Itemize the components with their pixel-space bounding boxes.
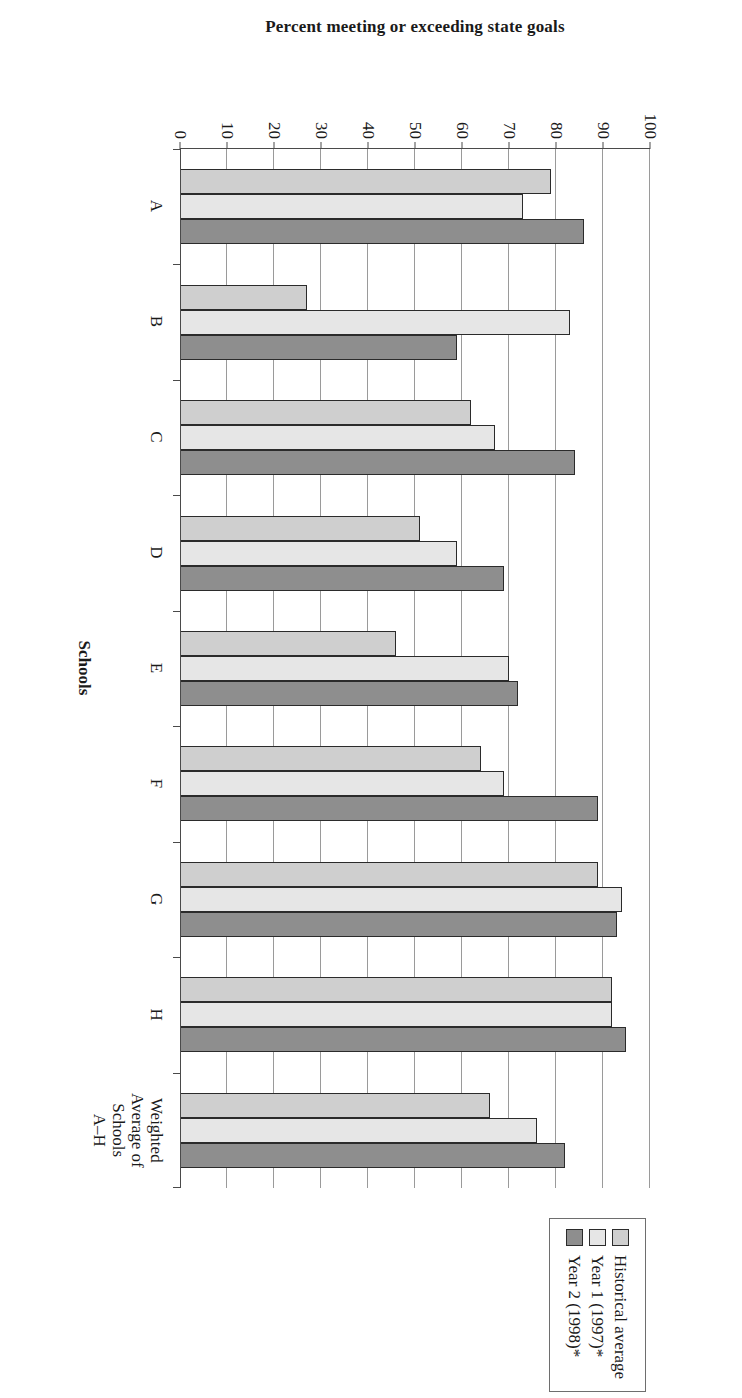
- bar-group[interactable]: [180, 611, 650, 726]
- category-label-line: A: [147, 148, 166, 264]
- bar[interactable]: [180, 541, 457, 566]
- x-axis-tick-mark: [173, 726, 180, 727]
- category-label-line: G: [147, 841, 166, 957]
- x-axis-baseline: [180, 149, 181, 1188]
- bar[interactable]: [180, 862, 598, 887]
- x-axis-category-label: E: [90, 610, 170, 726]
- bar-group[interactable]: [180, 842, 650, 957]
- legend-swatch-year1: [589, 1229, 606, 1246]
- x-axis-category-label: F: [90, 726, 170, 842]
- x-axis-category-label: WeightedAverage ofSchoolsA–H: [90, 1073, 170, 1189]
- bar-group[interactable]: [180, 726, 650, 841]
- x-axis-tick-mark: [173, 380, 180, 381]
- x-axis-tick-mark: [173, 264, 180, 265]
- bar[interactable]: [180, 450, 575, 475]
- x-axis-tick-mark: [173, 957, 180, 958]
- x-axis-category-labels: ABCDEFGHWeightedAverage ofSchoolsA–H: [90, 148, 170, 1188]
- y-axis-tick-label: 50: [407, 93, 424, 149]
- x-axis-category-label: C: [90, 379, 170, 495]
- y-axis-tick-label: 0: [172, 93, 189, 149]
- category-label-line: Weighted: [147, 1073, 166, 1189]
- bar[interactable]: [180, 285, 307, 310]
- x-axis-tick-mark: [173, 1187, 180, 1188]
- x-axis-tick-mark: [173, 149, 180, 150]
- legend-entry[interactable]: Year 2 (1998)*: [566, 1229, 583, 1379]
- bar[interactable]: [180, 219, 584, 244]
- bar[interactable]: [180, 1118, 537, 1143]
- y-axis-title: Percent meeting or exceeding state goals: [180, 14, 650, 40]
- legend-entry[interactable]: Year 1 (1997)*: [589, 1229, 606, 1379]
- y-axis-tick-label: 90: [595, 93, 612, 149]
- legend-entry-label: Historical average: [612, 1255, 629, 1379]
- bar-groups: [180, 149, 650, 1188]
- legend-swatch-year2: [566, 1229, 583, 1246]
- y-axis-tick-label: 80: [548, 93, 565, 149]
- y-axis-tick-label: 60: [454, 93, 471, 149]
- legend-swatch-historical: [612, 1229, 629, 1246]
- bar[interactable]: [180, 400, 471, 425]
- legend-entry[interactable]: Historical average: [612, 1229, 629, 1379]
- bar[interactable]: [180, 425, 495, 450]
- bar-chart-figure: Percent meeting or exceeding state goals…: [0, 0, 742, 1398]
- bar[interactable]: [180, 566, 504, 591]
- bar[interactable]: [180, 1027, 627, 1052]
- category-label-line: D: [147, 495, 166, 611]
- chart-stage: Percent meeting or exceeding state goals…: [0, 0, 742, 1398]
- bar[interactable]: [180, 977, 612, 1002]
- bar-group[interactable]: [180, 957, 650, 1072]
- y-axis-tick-label: 30: [313, 93, 330, 149]
- x-axis-tick-mark: [173, 495, 180, 496]
- x-axis-category-label: H: [90, 957, 170, 1073]
- y-axis-tick-label: 10: [219, 93, 236, 149]
- bar[interactable]: [180, 681, 518, 706]
- bar[interactable]: [180, 1002, 612, 1027]
- bar[interactable]: [180, 335, 457, 360]
- y-axis-tick-label: 20: [266, 93, 283, 149]
- category-label-line: Average of: [128, 1073, 147, 1189]
- legend-entry-label: Year 1 (1997)*: [589, 1255, 606, 1357]
- bar-group[interactable]: [180, 380, 650, 495]
- bar[interactable]: [180, 656, 509, 681]
- bar[interactable]: [180, 771, 504, 796]
- bar-group[interactable]: [180, 495, 650, 610]
- bar-group[interactable]: [180, 149, 650, 264]
- legend-entry-label: Year 2 (1998)*: [566, 1255, 583, 1357]
- x-axis-tick-mark: [173, 842, 180, 843]
- bar[interactable]: [180, 310, 570, 335]
- bar[interactable]: [180, 887, 622, 912]
- bar[interactable]: [180, 516, 420, 541]
- category-label-line: F: [147, 726, 166, 842]
- category-label-line: C: [147, 379, 166, 495]
- bar[interactable]: [180, 912, 617, 937]
- bar[interactable]: [180, 1143, 565, 1168]
- bar-group[interactable]: [180, 264, 650, 379]
- bar[interactable]: [180, 1093, 490, 1118]
- x-axis-category-label: G: [90, 841, 170, 957]
- bar[interactable]: [180, 796, 598, 821]
- bar[interactable]: [180, 631, 396, 656]
- y-axis-tick-label: 70: [501, 93, 518, 149]
- category-label-line: H: [147, 957, 166, 1073]
- x-axis-title: Schools: [74, 148, 94, 1188]
- category-label-line: E: [147, 610, 166, 726]
- category-label-line: B: [147, 264, 166, 380]
- x-axis-category-label: B: [90, 264, 170, 380]
- bar-group[interactable]: [180, 1073, 650, 1188]
- category-label-line: Schools: [109, 1073, 128, 1189]
- x-axis-tick-mark: [173, 611, 180, 612]
- bar[interactable]: [180, 169, 551, 194]
- y-axis-tick-label: 100: [642, 93, 659, 149]
- x-axis-category-label: A: [90, 148, 170, 264]
- y-axis-tick-label: 40: [360, 93, 377, 149]
- x-axis-tick-mark: [173, 1073, 180, 1074]
- plot-area: 0102030405060708090100: [180, 148, 650, 1188]
- x-axis-category-label: D: [90, 495, 170, 611]
- chart-legend: Historical averageYear 1 (1997)*Year 2 (…: [549, 1218, 646, 1392]
- bar[interactable]: [180, 194, 523, 219]
- bar[interactable]: [180, 746, 481, 771]
- y-axis-title-text: Percent meeting or exceeding state goals: [265, 17, 565, 37]
